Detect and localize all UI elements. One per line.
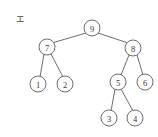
tree-node-9: 9 <box>84 20 100 36</box>
tree-node-8: 8 <box>125 40 141 56</box>
tree-edge-n8-n6 <box>137 55 143 75</box>
tree-node-label-7: 7 <box>45 43 49 53</box>
tree-node-label-3: 3 <box>107 114 111 124</box>
tree-node-label-2: 2 <box>63 80 67 90</box>
tree-node-2: 2 <box>57 76 73 92</box>
tree-diagram-canvas: 978125634 エ <box>0 0 158 137</box>
tree-edge-n5-n4 <box>121 89 133 111</box>
tree-edge-n9-n7 <box>52 33 86 43</box>
tree-node-label-9: 9 <box>90 24 94 34</box>
tree-node-7: 7 <box>39 39 55 55</box>
tree-node-6: 6 <box>137 74 153 90</box>
tree-edge-n7-n1 <box>40 54 44 77</box>
tree-node-label-6: 6 <box>143 78 147 88</box>
tree-nodes-group: 978125634 <box>30 20 153 126</box>
tree-edge-n9-n8 <box>98 33 128 43</box>
tree-node-4: 4 <box>127 110 143 126</box>
tree-node-5: 5 <box>110 74 126 90</box>
tree-node-label-1: 1 <box>36 80 40 90</box>
tree-edge-n5-n3 <box>111 89 115 111</box>
figure-label: エ <box>16 14 25 24</box>
tree-node-label-8: 8 <box>131 44 135 54</box>
tree-edge-n7-n2 <box>51 54 63 77</box>
binary-tree-figure: 978125634 エ <box>0 0 158 137</box>
tree-edge-n8-n5 <box>121 55 129 75</box>
tree-node-3: 3 <box>101 110 117 126</box>
tree-node-1: 1 <box>30 76 46 92</box>
tree-node-label-5: 5 <box>116 78 120 88</box>
